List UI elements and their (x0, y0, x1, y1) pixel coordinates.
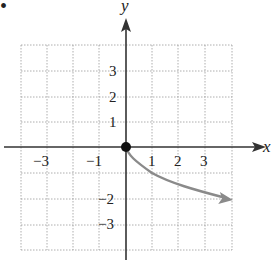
y-tick-3: 3 (109, 64, 117, 79)
x-tick-minus3: −3 (33, 154, 49, 169)
y-tick-2: 2 (109, 90, 117, 105)
y-tick-1: 1 (109, 115, 117, 130)
x-tick-minus1: −1 (86, 154, 102, 169)
y-tick-minus2: −2 (98, 192, 114, 207)
coordinate-plane (0, 0, 273, 262)
x-axis-label: x (263, 138, 271, 155)
y-axis-label: y (121, 0, 129, 14)
y-tick-minus3: −3 (98, 217, 114, 232)
x-tick-3: 3 (200, 154, 208, 169)
x-tick-1: 1 (148, 154, 156, 169)
origin-point (121, 142, 131, 152)
x-tick-2: 2 (174, 154, 182, 169)
